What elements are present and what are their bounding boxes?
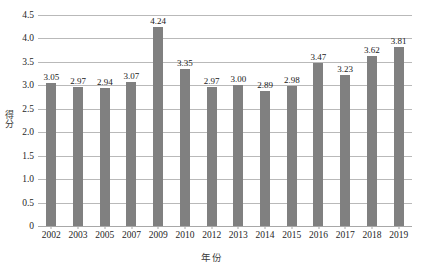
- bar[interactable]: [153, 27, 163, 226]
- bar-slot: 4.24: [145, 15, 172, 226]
- x-tick-mark: [318, 226, 319, 229]
- bar-slot: 3.07: [118, 15, 145, 226]
- x-tick-mark: [265, 226, 266, 229]
- bar-slot: 2.98: [278, 15, 305, 226]
- y-tick-label: 0.5: [4, 198, 34, 208]
- x-tick-mark: [104, 226, 105, 229]
- bar-value-label: 4.24: [150, 16, 166, 26]
- y-tick-label: 2.5: [4, 104, 34, 114]
- bar-value-label: 2.89: [257, 80, 273, 90]
- y-tick-label: 1.5: [4, 151, 34, 161]
- bar[interactable]: [73, 87, 83, 226]
- y-tick-label: 4.5: [4, 10, 34, 20]
- bar-slot: 3.62: [359, 15, 386, 226]
- x-tick-label: 2012: [202, 230, 221, 240]
- bar-slot: 3.35: [172, 15, 199, 226]
- bar-slot: 2.97: [198, 15, 225, 226]
- bar-value-label: 3.81: [391, 36, 407, 46]
- bar-slot: 2.97: [65, 15, 92, 226]
- y-tick-label: 3.0: [4, 80, 34, 90]
- bar[interactable]: [180, 69, 190, 226]
- x-tick-mark: [291, 226, 292, 229]
- x-tick-mark: [398, 226, 399, 229]
- x-tick-label: 2015: [282, 230, 301, 240]
- bar-slot: 3.47: [305, 15, 332, 226]
- x-tick-label: 2016: [309, 230, 328, 240]
- bar[interactable]: [287, 86, 297, 226]
- bar-value-label: 3.47: [311, 52, 327, 62]
- x-tick-label: 2009: [149, 230, 168, 240]
- bar-value-label: 2.97: [204, 76, 220, 86]
- bar[interactable]: [233, 85, 243, 226]
- x-tick-label: 2019: [389, 230, 408, 240]
- x-tick-label: 2010: [175, 230, 194, 240]
- x-tick-mark: [158, 226, 159, 229]
- bar[interactable]: [394, 47, 404, 226]
- x-axis-tick-labels: 2002200320052007200920102012201320142015…: [38, 226, 412, 248]
- bar-value-label: 3.62: [364, 45, 380, 55]
- x-tick-mark: [131, 226, 132, 229]
- x-tick-mark: [371, 226, 372, 229]
- y-tick-label: 1.0: [4, 174, 34, 184]
- x-tick-label: 2014: [256, 230, 275, 240]
- x-tick-label: 2002: [42, 230, 61, 240]
- bar[interactable]: [207, 87, 217, 226]
- bar-slot: 2.94: [91, 15, 118, 226]
- x-tick-mark: [184, 226, 185, 229]
- x-tick-mark: [238, 226, 239, 229]
- bar-value-label: 3.35: [177, 58, 193, 68]
- bar-value-label: 3.07: [124, 71, 140, 81]
- bar-chart: 得分 00.51.01.52.02.53.03.54.04.5 3.052.97…: [0, 0, 423, 270]
- bar-value-label: 2.98: [284, 75, 300, 85]
- x-tick-label: 2017: [336, 230, 355, 240]
- y-tick-label: 2.0: [4, 127, 34, 137]
- bar[interactable]: [367, 56, 377, 226]
- x-tick-label: 2018: [362, 230, 381, 240]
- x-tick-label: 2005: [95, 230, 114, 240]
- x-axis-title: 年份: [0, 250, 423, 264]
- bar[interactable]: [46, 83, 56, 226]
- y-axis-tick-labels: 00.51.01.52.02.53.03.54.04.5: [0, 15, 34, 226]
- x-tick-label: 2007: [122, 230, 141, 240]
- bar-slot: 2.89: [252, 15, 279, 226]
- bar-value-label: 3.00: [230, 74, 246, 84]
- bar-value-label: 3.05: [43, 72, 59, 82]
- bar-value-label: 2.97: [70, 76, 86, 86]
- bar-slot: 3.81: [385, 15, 412, 226]
- x-tick-mark: [211, 226, 212, 229]
- x-tick-mark: [78, 226, 79, 229]
- y-tick-label: 0: [4, 221, 34, 231]
- bar-slot: 3.05: [38, 15, 65, 226]
- x-tick-label: 2013: [229, 230, 248, 240]
- bar[interactable]: [340, 75, 350, 226]
- y-tick-label: 4.0: [4, 33, 34, 43]
- x-tick-mark: [51, 226, 52, 229]
- bar[interactable]: [126, 82, 136, 226]
- bar[interactable]: [100, 88, 110, 226]
- x-tick-label: 2003: [69, 230, 88, 240]
- plot-area: 3.052.972.943.074.243.352.973.002.892.98…: [38, 15, 412, 226]
- bar[interactable]: [313, 63, 323, 226]
- y-tick-label: 3.5: [4, 57, 34, 67]
- x-tick-mark: [345, 226, 346, 229]
- bar-slot: 3.00: [225, 15, 252, 226]
- bar[interactable]: [260, 91, 270, 227]
- bar-value-label: 2.94: [97, 77, 113, 87]
- bar-value-label: 3.23: [337, 64, 353, 74]
- bar-slot: 3.23: [332, 15, 359, 226]
